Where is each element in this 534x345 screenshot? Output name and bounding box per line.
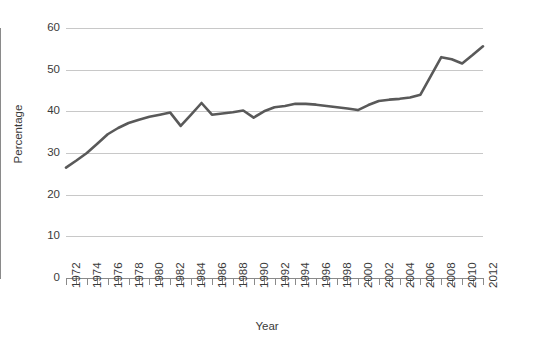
x-axis-title: Year [0,320,534,332]
x-axis-tick-label: 1972 [71,262,83,288]
x-axis-tick-label: 2004 [405,262,417,288]
x-axis-tick-label: 1980 [154,262,166,288]
x-axis-tick-label: 1990 [259,262,271,288]
x-axis-tick-label: 2012 [488,262,500,288]
x-axis-tick-label: 1984 [196,262,208,288]
x-axis-tick-label: 1976 [113,262,125,288]
x-axis-tick-label: 1974 [92,262,104,288]
x-axis-tick-label: 1992 [280,262,292,288]
x-axis-tick-label: 1982 [175,262,187,288]
x-axis-tick-label: 1978 [134,262,146,288]
x-axis-tick-label: 2002 [384,262,396,288]
x-axis-tick-label: 2010 [467,262,479,288]
x-axis-tick-label: 1988 [238,262,250,288]
x-axis-tick-label: 1998 [342,262,354,288]
line-chart: Percentage 0102030405060 197219741976197… [0,0,534,345]
x-axis-tick-label: 2008 [446,262,458,288]
x-axis-tick-label: 1996 [321,262,333,288]
x-axis-tick-label: 1986 [217,262,229,288]
x-axis-tick-label: 2000 [363,262,375,288]
x-axis-tick-label: 1994 [300,262,312,288]
x-axis-tick-label: 2006 [425,262,437,288]
x-axis-tick-labels: 1972197419761978198019821984198619881990… [0,0,534,345]
